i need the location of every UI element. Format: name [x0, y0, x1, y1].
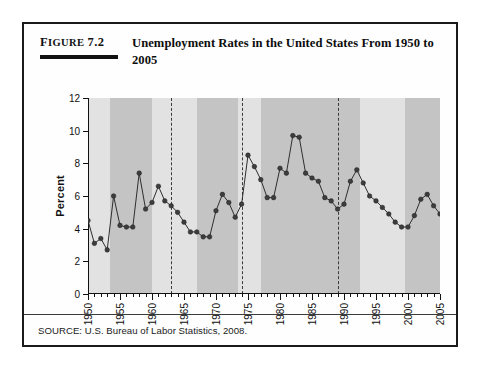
x-axis-tick-major [376, 294, 377, 300]
data-series [88, 98, 440, 294]
x-axis-tick-minor [94, 294, 95, 297]
series-line [88, 136, 440, 250]
figure-label-word: IGURE [48, 37, 84, 48]
x-axis-tick-minor [395, 294, 396, 297]
x-axis-tick-minor [363, 294, 364, 297]
figure-label: FIGURE 7.2 [40, 35, 132, 50]
source-note: SOURCE: U.S. Bureau of Labor Statistics,… [38, 325, 247, 336]
data-point [284, 171, 289, 176]
x-axis-tick-major [312, 294, 313, 300]
x-axis-tick-minor [171, 294, 172, 297]
x-axis-tick-minor [382, 294, 383, 297]
data-point [118, 223, 123, 228]
data-point [188, 230, 193, 235]
x-axis-tick-minor [158, 294, 159, 297]
x-axis-tick-minor [197, 294, 198, 297]
data-point [348, 179, 353, 184]
data-point [406, 225, 411, 230]
data-point [393, 220, 398, 225]
x-axis-tick-minor [107, 294, 108, 297]
x-axis-tick-minor [114, 294, 115, 297]
data-point [271, 195, 276, 200]
x-axis-tick-minor [274, 294, 275, 297]
data-point [99, 236, 104, 241]
x-axis-tick-minor [267, 294, 268, 297]
x-axis-tick-minor [414, 294, 415, 297]
data-point [214, 208, 219, 213]
x-axis-tick-major [280, 294, 281, 300]
data-point [246, 153, 251, 158]
data-point [92, 241, 97, 246]
x-axis-tick-minor [242, 294, 243, 297]
data-point [342, 202, 347, 207]
data-point [233, 215, 238, 220]
x-axis-tick-minor [126, 294, 127, 297]
data-point [201, 235, 206, 240]
x-axis-tick-minor [101, 294, 102, 297]
data-point [419, 197, 424, 202]
data-point [431, 204, 436, 209]
x-axis-tick-minor [350, 294, 351, 297]
data-point [399, 225, 404, 230]
x-axis-tick-minor [254, 294, 255, 297]
data-point [412, 213, 417, 218]
x-axis-tick-minor [331, 294, 332, 297]
data-point [163, 199, 168, 204]
data-point [156, 184, 161, 189]
x-axis-tick-minor [190, 294, 191, 297]
data-point [380, 205, 385, 210]
data-point [195, 230, 200, 235]
data-point [259, 177, 264, 182]
data-point [143, 207, 148, 212]
y-axis-title: Percent [54, 98, 66, 294]
data-point [291, 133, 296, 138]
x-axis-tick-minor [165, 294, 166, 297]
data-point [323, 195, 328, 200]
x-axis-tick-minor [306, 294, 307, 297]
x-axis-tick-minor [318, 294, 319, 297]
data-point [150, 200, 155, 205]
data-point [227, 200, 232, 205]
y-axis-tick-label: 6 [74, 191, 80, 202]
data-point [265, 195, 270, 200]
data-point [335, 207, 340, 212]
x-axis-tick-minor [299, 294, 300, 297]
y-axis-title-text: Percent [54, 175, 66, 217]
data-point [278, 166, 283, 171]
data-point [239, 202, 244, 207]
x-axis-tick-minor [261, 294, 262, 297]
x-axis-tick-minor [389, 294, 390, 297]
data-point [361, 181, 366, 186]
data-point [303, 171, 308, 176]
figure-title: Unemployment Rates in the United States … [132, 35, 442, 68]
data-point [220, 192, 225, 197]
data-point [387, 212, 392, 217]
x-axis-tick-major [216, 294, 217, 300]
data-point [367, 194, 372, 199]
data-point [297, 135, 302, 140]
x-axis-tick-major [344, 294, 345, 300]
x-axis-tick-minor [286, 294, 287, 297]
data-point [169, 204, 174, 209]
x-axis-tick-major [248, 294, 249, 300]
chart-plot-area: 0246810121950195519601965197019751980198… [88, 98, 440, 294]
data-point [310, 176, 315, 181]
x-axis-tick-major [152, 294, 153, 300]
figure-number: 7.2 [88, 35, 105, 49]
y-axis-tick-label: 8 [74, 158, 80, 169]
y-axis-tick-label: 2 [74, 256, 80, 267]
y-axis-tick-label: 0 [74, 289, 80, 300]
x-axis-tick-minor [421, 294, 422, 297]
x-axis-tick-minor [293, 294, 294, 297]
x-axis-tick-minor [325, 294, 326, 297]
figure-card: FIGURE 7.2 Unemployment Rates in the Uni… [22, 22, 458, 347]
data-point [316, 179, 321, 184]
x-axis-tick-minor [229, 294, 230, 297]
data-point [355, 168, 360, 173]
figure-label-initial: F [40, 35, 48, 49]
data-point [88, 218, 90, 223]
x-axis-tick-minor [370, 294, 371, 297]
figure-label-block: FIGURE 7.2 [40, 35, 132, 59]
data-point [111, 194, 116, 199]
x-axis-tick-minor [210, 294, 211, 297]
